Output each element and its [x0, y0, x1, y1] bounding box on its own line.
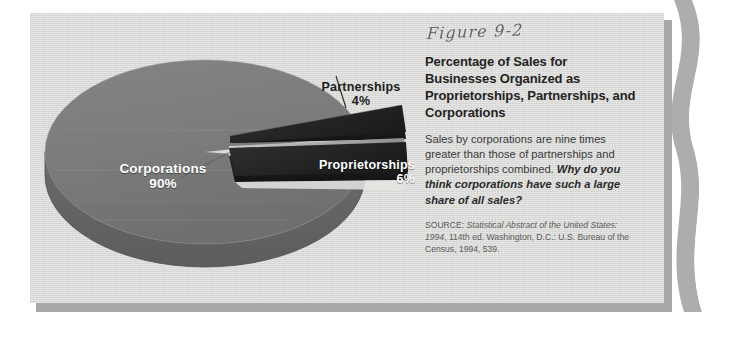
caption-source: SOURCE: Statistical Abstract of the Unit… [425, 219, 641, 256]
corporations-name: Corporations [119, 161, 206, 176]
proprietorships-name: Proprietorships [319, 158, 415, 172]
pie-label-partnerships: Partnerships 4% [298, 80, 424, 108]
pie-label-proprietorships: Proprietorships 6% [280, 158, 415, 186]
caption-title: Percentage of Sales for Businesses Organ… [425, 54, 641, 122]
source-prefix: SOURCE: [425, 220, 467, 230]
caption-body: Sales by corporations are nine times gre… [425, 132, 641, 208]
partnerships-name: Partnerships [322, 80, 401, 94]
proprietorships-percent: 6% [280, 172, 415, 186]
source-rest: , 114th ed. Washington, D.C.: U.S. Burea… [425, 232, 629, 254]
pie-chart: Corporations 90% Proprietorships 6% Part… [30, 30, 430, 295]
scanned-textbook-figure: Corporations 90% Proprietorships 6% Part… [0, 0, 732, 337]
pie-label-corporations: Corporations 90% [88, 161, 238, 191]
caption-column: Figure 9-2 Percentage of Sales for Busin… [425, 24, 641, 255]
partnerships-percent: 4% [298, 94, 424, 108]
corporations-percent: 90% [88, 176, 238, 191]
